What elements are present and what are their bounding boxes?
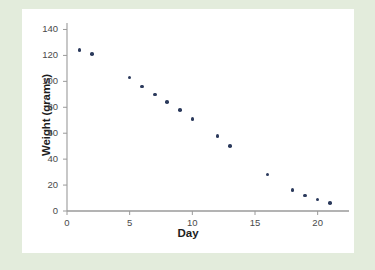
y-tick-label: 20 xyxy=(28,180,58,190)
x-tick-label: 0 xyxy=(55,218,79,228)
y-tick-label: 120 xyxy=(28,50,58,60)
data-point xyxy=(153,93,157,97)
data-point xyxy=(90,52,94,56)
y-tick-label: 60 xyxy=(28,128,58,138)
y-tick-label: 100 xyxy=(28,76,58,86)
scatter-chart: Weight (grams) Day 020406080100120140 05… xyxy=(22,9,354,253)
figure-frame: Weight (grams) Day 020406080100120140 05… xyxy=(22,9,354,253)
y-tick-label: 140 xyxy=(28,24,58,34)
x-tick-label: 5 xyxy=(118,218,142,228)
data-point xyxy=(216,134,220,138)
y-tick-label: 0 xyxy=(28,206,58,216)
y-tick-marks xyxy=(63,29,67,211)
data-point xyxy=(328,201,332,205)
x-tick-label: 15 xyxy=(243,218,267,228)
data-point xyxy=(303,194,307,198)
x-tick-label: 20 xyxy=(306,218,330,228)
data-point xyxy=(228,144,232,148)
y-tick-label: 40 xyxy=(28,154,58,164)
data-point xyxy=(165,100,169,104)
x-tick-label: 10 xyxy=(180,218,204,228)
data-point xyxy=(178,108,182,112)
data-point xyxy=(191,117,195,121)
y-tick-label: 80 xyxy=(28,102,58,112)
